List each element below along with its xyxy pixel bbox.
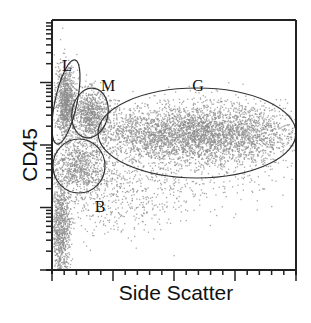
gate-label-m: M	[101, 77, 115, 94]
y-axis-label: CD45	[18, 128, 41, 182]
flow-cytometry-scatter-plot: LMGB Side Scatter CD45	[0, 0, 311, 323]
gate-label-l: L	[62, 57, 72, 74]
scatter-points	[53, 28, 296, 270]
y-axis-ticks	[40, 23, 52, 270]
gate-label-b: B	[95, 198, 106, 215]
x-axis-label: Side Scatter	[119, 281, 233, 304]
x-axis-ticks	[52, 270, 296, 281]
gate-label-g: G	[192, 77, 204, 94]
